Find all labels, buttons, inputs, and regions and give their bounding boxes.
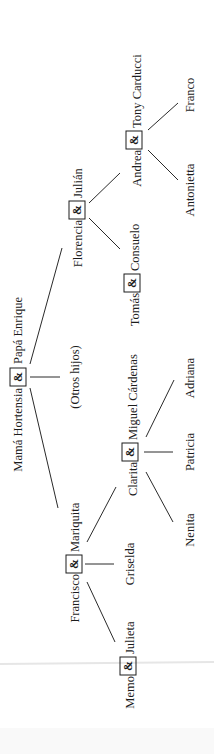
couple-francisco-mariquita: Francisco & Mariquita [66,502,82,622]
ampersand-icon: & [127,135,141,145]
person-memo: Memo [123,676,137,709]
person-mama-hortensia: Mamá Hortensia [11,388,25,472]
family-tree-diagram: Mamá Hortensia & Papá Enrique Francisco … [0,0,214,754]
edge-clarita-adriana [146,380,174,437]
person-julieta: Julieta [123,621,137,654]
couple-tomas-consuelo: Tomás & Consuelo [124,224,142,326]
person-consuelo: Consuelo [128,224,142,271]
edge-clarita-nenita [146,472,173,522]
edge-francisco-clarita [87,487,116,542]
edge-francisco-memo [87,582,115,642]
page-fold-line [0,662,214,664]
couple-andrea-tony: Andrea & Tony Carducci [126,54,144,187]
edge-gen1-francisco [30,388,58,508]
person-tony-carducci: Tony Carducci [130,54,144,128]
couple-florencia-julian: Florencia & Julián [69,167,85,267]
person-clarita: Clarita [126,462,140,496]
person-florencia: Florencia [71,220,85,268]
ampersand-icon: & [121,661,135,671]
ampersand-icon: & [11,372,25,382]
person-nenita: Nenita [183,513,197,547]
person-franco: Franco [183,78,197,113]
edge-florencia-andrea [89,173,120,203]
person-tomas: Tomás [128,293,142,326]
person-antonietta: Antonietta [183,163,197,216]
edge-andrea-franco [148,103,178,130]
person-andrea: Andrea [130,150,144,187]
edge-andrea-antonietta [148,150,178,180]
person-patricia: Patricia [183,432,197,471]
person-papa-enrique: Papá Enrique [11,297,25,364]
edge-gen1-florencia [30,248,62,364]
person-mariquita: Mariquita [68,502,82,552]
ampersand-icon: & [67,559,81,569]
tree-edges [30,103,178,642]
ampersand-icon: & [70,205,84,215]
person-adriana: Adriana [183,357,197,398]
other-children-label: (Otros hijos) [68,345,82,409]
person-julian: Julián [71,167,85,198]
person-griselda: Griselda [123,542,137,585]
ampersand-icon: & [125,278,139,288]
person-francisco: Francisco [68,574,82,623]
edge-florencia-consuelo [89,218,120,249]
ampersand-icon: & [123,447,137,457]
couple-memo-julieta: Memo & Julieta [120,621,137,709]
person-miguel-cardenas: Miguel Cárdenas [126,354,140,440]
couple-hortensia-enrique: Mamá Hortensia & Papá Enrique [10,297,26,472]
paper-texture [0,728,214,754]
couple-clarita-miguel: Clarita & Miguel Cárdenas [122,354,140,496]
